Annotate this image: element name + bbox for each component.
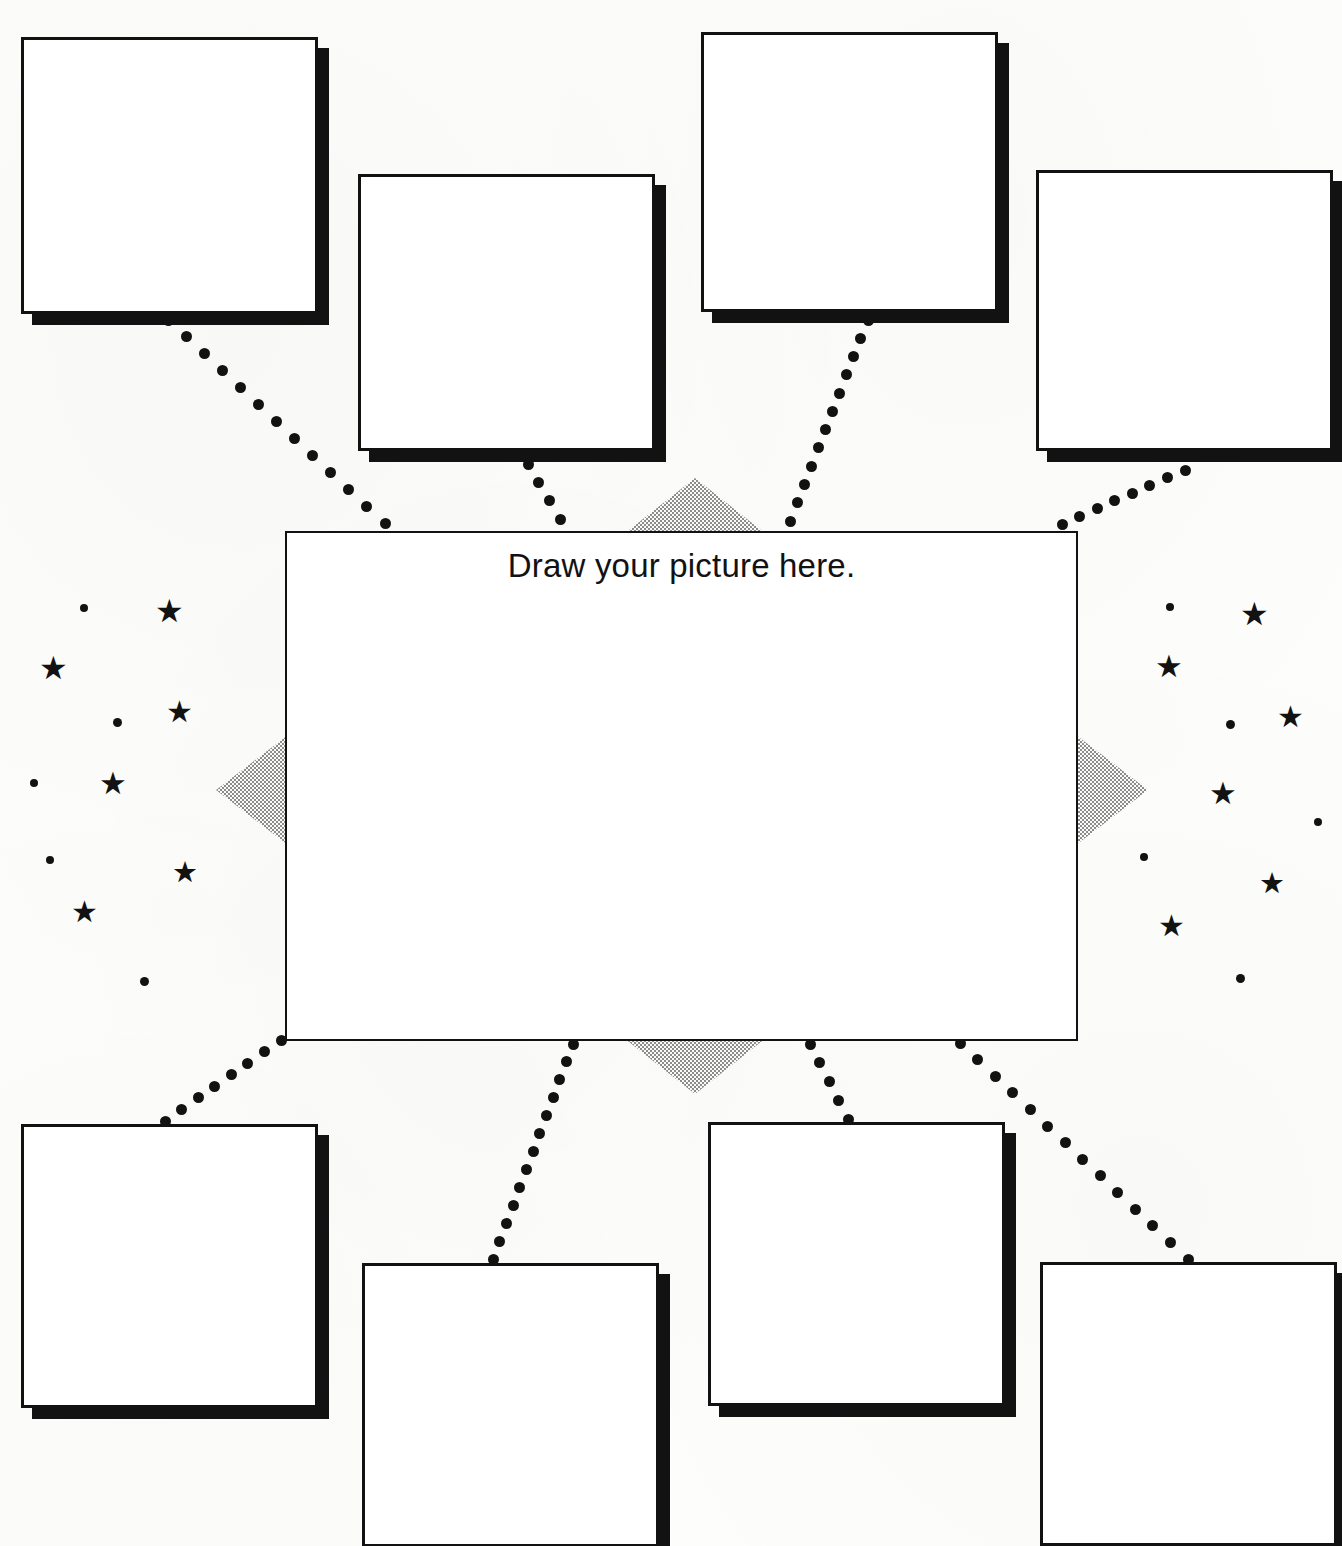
worksheet-page: ★★★★★★★★★★★★ Draw your picture here. bbox=[0, 0, 1342, 1546]
connector-dot bbox=[1130, 1204, 1141, 1215]
connector-dot bbox=[1042, 1121, 1053, 1132]
connector-dot bbox=[972, 1054, 983, 1065]
connector-dot bbox=[1095, 1170, 1106, 1181]
connector-dot bbox=[1077, 1154, 1088, 1165]
connector-dot bbox=[1060, 1137, 1071, 1148]
connector-dot bbox=[1112, 1187, 1123, 1198]
drawing-area[interactable]: Draw your picture here. bbox=[285, 531, 1078, 1041]
connector-dot bbox=[1025, 1104, 1036, 1115]
connector-dot bbox=[1007, 1087, 1018, 1098]
drawing-area-label: Draw your picture here. bbox=[287, 547, 1076, 585]
connector-dot bbox=[1147, 1220, 1158, 1231]
connector-dot bbox=[1183, 1254, 1194, 1265]
connector-dot bbox=[1165, 1237, 1176, 1248]
connector-dot bbox=[990, 1071, 1001, 1082]
